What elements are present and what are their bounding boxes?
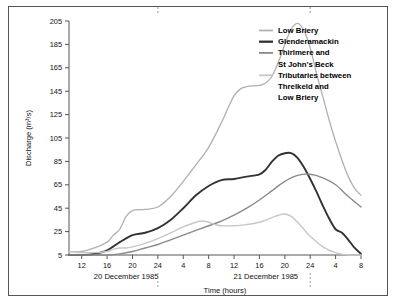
y-tick-label: 45 (54, 204, 62, 213)
y-tick-group: 525456585105125145165185205 (50, 17, 69, 260)
series-curve-group (69, 23, 361, 255)
y-tick-label: 185 (50, 40, 62, 49)
legend-label-2: St John's Beck (278, 60, 334, 69)
y-tick-label: 165 (50, 63, 62, 72)
y-tick-label: 125 (50, 110, 62, 119)
series-curve-0 (69, 23, 361, 251)
day-label: 20 December 1985 (94, 272, 159, 281)
y-tick-label: 65 (54, 180, 62, 189)
legend-label-3: Tributaries between (278, 71, 351, 80)
y-axis: 525456585105125145165185205 Discharge (m… (24, 17, 69, 260)
x-tick-group: 12162024481216202448 (78, 255, 363, 270)
x-tick-label: 24 (154, 261, 162, 270)
day-label-group: 20 December 198521 December 1985 (94, 272, 298, 281)
y-axis-title: Discharge (m³/s) (24, 109, 33, 166)
x-tick-label: 12 (230, 261, 238, 270)
legend-label-3: Threlkeld and (278, 82, 329, 91)
y-tick-label: 105 (50, 134, 62, 143)
legend-label-0: Low Briery (278, 26, 319, 35)
x-tick-label: 12 (78, 261, 86, 270)
series-curve-1 (69, 153, 361, 255)
x-tick-label: 20 (281, 261, 289, 270)
y-tick-label: 145 (50, 87, 62, 96)
series-curve-3 (69, 214, 361, 255)
y-tick-label: 205 (50, 17, 62, 26)
discharge-hydrograph-chart: 525456585105125145165185205 Discharge (m… (9, 7, 387, 295)
x-tick-label: 16 (103, 261, 111, 270)
legend-label-3: Low Briery (278, 93, 319, 102)
chart-legend: Low BrieryGlenderamackinThirlmere andSt … (259, 26, 351, 102)
x-tick-label: 24 (306, 261, 314, 270)
legend-label-1: Glenderamackin (278, 37, 339, 46)
chart-frame: 525456585105125145165185205 Discharge (m… (8, 6, 388, 296)
y-tick-label: 85 (54, 157, 62, 166)
y-tick-label: 25 (54, 227, 62, 236)
legend-label-2: Thirlmere and (278, 48, 330, 57)
day-label: 21 December 1985 (233, 272, 298, 281)
y-tick-label: 5 (58, 251, 62, 260)
x-axis-title: Time (hours) (204, 286, 247, 295)
x-tick-label: 8 (207, 261, 211, 270)
x-tick-label: 16 (255, 261, 263, 270)
x-tick-label: 20 (128, 261, 136, 270)
x-tick-label: 8 (359, 261, 363, 270)
x-tick-label: 4 (181, 261, 185, 270)
x-tick-label: 4 (334, 261, 338, 270)
